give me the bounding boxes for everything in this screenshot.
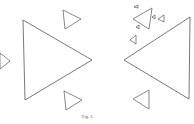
right-triangle-small-3 bbox=[158, 15, 164, 22]
right-triangle-small-5 bbox=[130, 35, 136, 44]
left-panel bbox=[0, 10, 92, 110]
right-panel bbox=[124, 5, 190, 109]
right-triangle-tiny-1 bbox=[134, 5, 138, 8]
left-triangle-large bbox=[23, 20, 92, 100]
right-triangle-tiny-2 bbox=[152, 15, 155, 19]
right-triangle-small-bottom bbox=[133, 90, 149, 109]
right-triangle-large bbox=[124, 17, 190, 99]
figure: Fig. 3. bbox=[0, 0, 194, 124]
figure-caption: Fig. 3. bbox=[82, 114, 94, 119]
triangle-diagram bbox=[0, 0, 194, 124]
left-triangle-small-left bbox=[0, 53, 10, 69]
left-triangle-small-top-right bbox=[63, 10, 81, 29]
right-triangle-medium-top bbox=[133, 8, 152, 29]
left-triangle-small-bottom-right bbox=[64, 91, 82, 110]
right-triangle-tiny-4 bbox=[136, 25, 139, 29]
